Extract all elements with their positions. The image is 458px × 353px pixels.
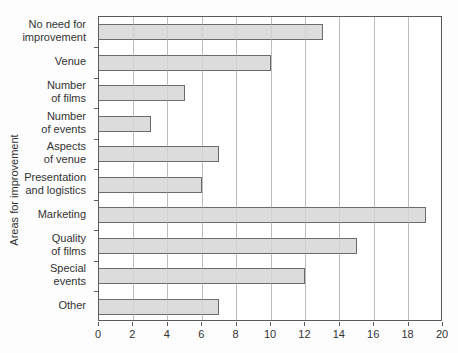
- bar: [99, 238, 357, 254]
- gridline: [374, 17, 375, 320]
- x-axis-tick-label: 18: [401, 328, 413, 340]
- category-label: Other: [0, 291, 92, 322]
- x-axis-tick-label: 16: [367, 328, 379, 340]
- category-label-line: Aspects: [47, 140, 86, 153]
- category-label-line: of films: [51, 92, 86, 105]
- x-axis-tick: [201, 322, 202, 326]
- bar: [99, 55, 271, 71]
- category-label: Venue: [0, 47, 92, 78]
- x-axis-tick: [132, 322, 133, 326]
- category-label-line: of venue: [44, 153, 86, 166]
- y-axis-tick: [94, 230, 99, 231]
- x-axis-tick-label: 14: [333, 328, 345, 340]
- x-axis-tick: [236, 322, 237, 326]
- bar: [99, 207, 426, 223]
- x-axis-tick-label: 2: [129, 328, 135, 340]
- category-label: Marketing: [0, 199, 92, 230]
- y-axis-tick: [94, 78, 99, 79]
- category-label-line: and logistics: [25, 184, 86, 197]
- y-axis-tick: [94, 261, 99, 262]
- category-label-line: improvement: [22, 31, 86, 44]
- category-label-line: Marketing: [38, 208, 86, 221]
- bar: [99, 116, 151, 132]
- category-label: Numberof films: [0, 77, 92, 108]
- gridline: [305, 17, 306, 320]
- x-axis-tick: [339, 322, 340, 326]
- gridline: [339, 17, 340, 320]
- x-axis-tick-label: 20: [436, 328, 448, 340]
- category-label: No need forimprovement: [0, 16, 92, 47]
- bar-chart-figure: Areas for improvement No need forimprove…: [0, 0, 458, 353]
- category-label-line: Number: [47, 110, 86, 123]
- category-label-line: Other: [58, 299, 86, 312]
- y-axis-tick: [94, 139, 99, 140]
- x-axis-tick-label: 8: [233, 328, 239, 340]
- gridline: [236, 17, 237, 320]
- category-label-line: No need for: [29, 18, 86, 31]
- x-axis-tick-label: 12: [298, 328, 310, 340]
- gridline: [167, 17, 168, 320]
- x-axis-tick: [373, 322, 374, 326]
- category-label-line: events: [54, 275, 86, 288]
- x-axis-tick-label: 6: [198, 328, 204, 340]
- category-label: Numberof events: [0, 108, 92, 139]
- gridline: [133, 17, 134, 320]
- y-axis-category-labels: No need forimprovementVenueNumberof film…: [0, 16, 92, 321]
- gridline: [408, 17, 409, 320]
- bar: [99, 85, 185, 101]
- category-label-line: of events: [41, 123, 86, 136]
- x-axis-tick-label: 0: [95, 328, 101, 340]
- category-label: Presentationand logistics: [0, 169, 92, 200]
- category-label-line: Quality: [52, 232, 86, 245]
- category-label-line: Number: [47, 79, 86, 92]
- category-label-line: Special: [50, 262, 86, 275]
- y-axis-tick: [94, 108, 99, 109]
- x-axis-tick: [304, 322, 305, 326]
- gridline: [202, 17, 203, 320]
- x-axis-tick-label: 10: [264, 328, 276, 340]
- x-axis-tick: [408, 322, 409, 326]
- y-axis-tick: [94, 47, 99, 48]
- y-axis-tick: [94, 291, 99, 292]
- x-axis-tick: [98, 322, 99, 326]
- y-axis-tick: [94, 200, 99, 201]
- x-axis-tick: [270, 322, 271, 326]
- gridline: [271, 17, 272, 320]
- plot-area: [98, 16, 442, 321]
- y-axis-tick: [94, 169, 99, 170]
- bar: [99, 177, 202, 193]
- category-label: Specialevents: [0, 260, 92, 291]
- category-label-line: Presentation: [24, 171, 86, 184]
- category-label: Aspectsof venue: [0, 138, 92, 169]
- x-axis-tick-label: 4: [164, 328, 170, 340]
- category-label: Qualityof films: [0, 230, 92, 261]
- x-axis-tick: [167, 322, 168, 326]
- category-label-line: Venue: [55, 55, 86, 68]
- x-axis-tick: [442, 322, 443, 326]
- category-label-line: of films: [51, 245, 86, 258]
